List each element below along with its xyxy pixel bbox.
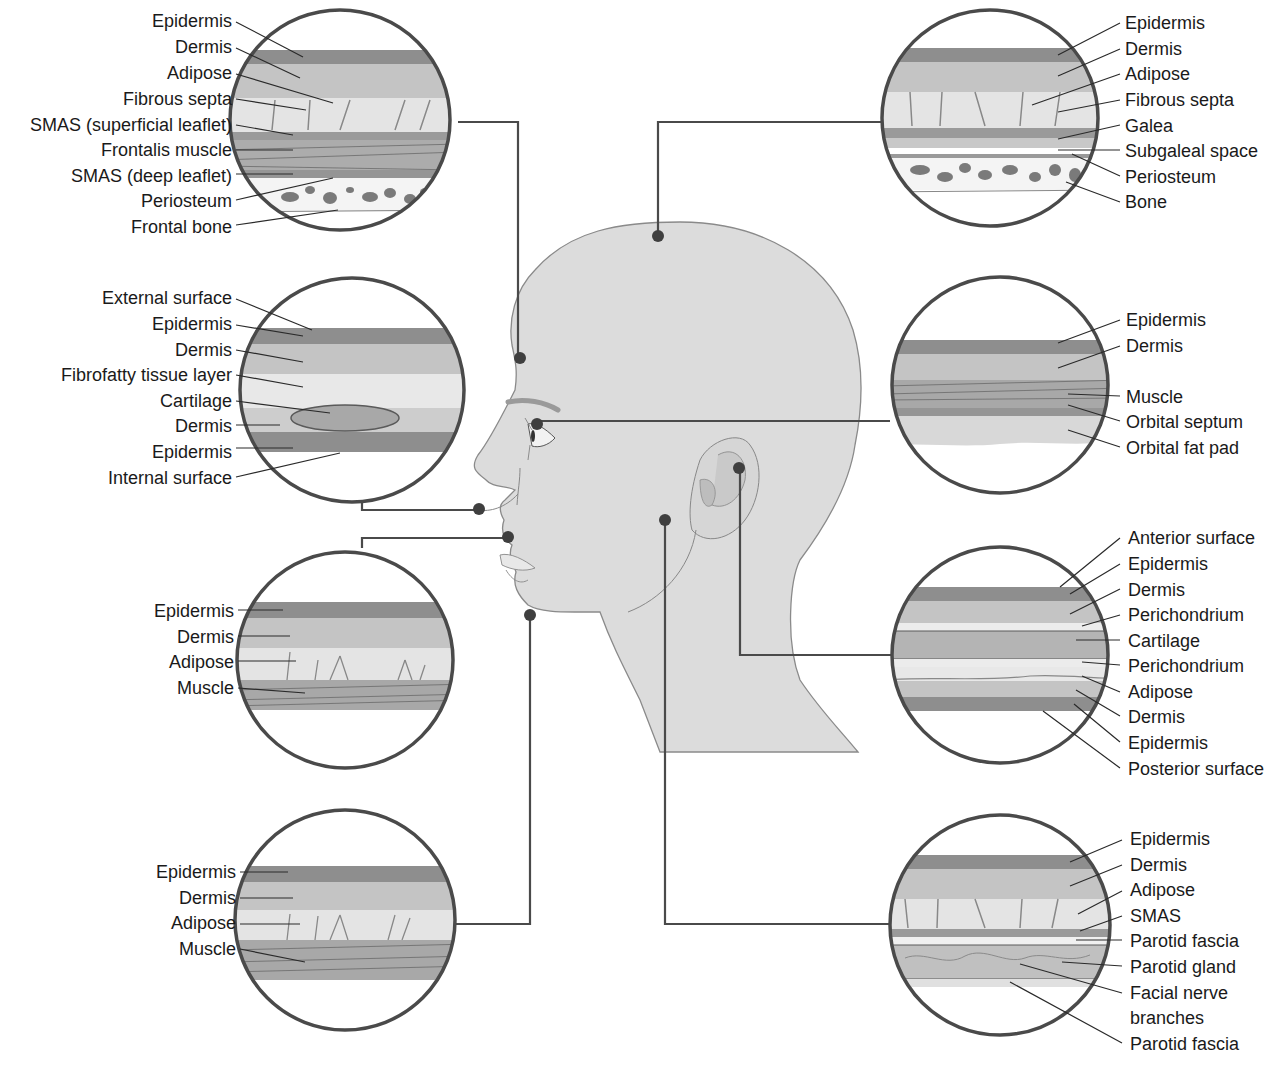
inset-chin — [230, 810, 470, 1030]
label: Bone — [1125, 192, 1167, 212]
head-profile — [440, 200, 900, 760]
label: Orbital fat pad — [1126, 438, 1239, 458]
label: Galea — [1125, 116, 1174, 136]
label: Epidermis — [1128, 554, 1208, 574]
inset-ear — [885, 547, 1125, 763]
inset-forehead — [220, 10, 460, 230]
label: Orbital septum — [1126, 412, 1243, 432]
label: Epidermis — [1125, 13, 1205, 33]
label: Epidermis — [152, 442, 232, 462]
label: Dermis — [175, 340, 232, 360]
label: Muscle — [179, 939, 236, 959]
label: Cartilage — [1128, 631, 1200, 651]
label: Parotid gland — [1130, 957, 1236, 977]
label: Adipose — [169, 652, 234, 672]
label: Fibrous septa — [123, 89, 233, 109]
label: Fibrofatty tissue layer — [61, 365, 232, 385]
lip-point — [502, 531, 514, 543]
label: branches — [1130, 1008, 1204, 1028]
label: SMAS (deep leaflet) — [71, 166, 232, 186]
forehead-point — [514, 352, 526, 364]
label: Facial nerve — [1130, 983, 1228, 1003]
label: Parotid fascia — [1130, 931, 1240, 951]
label: Epidermis — [154, 601, 234, 621]
label: Dermis — [1126, 336, 1183, 356]
label: Adipose — [1125, 64, 1190, 84]
label: Adipose — [167, 63, 232, 83]
cheek-point — [659, 514, 671, 526]
label: Adipose — [1130, 880, 1195, 900]
label: Perichondrium — [1128, 656, 1244, 676]
label: Frontalis muscle — [101, 140, 232, 160]
nose-point — [473, 503, 485, 515]
label: Dermis — [175, 416, 232, 436]
label: Adipose — [171, 913, 236, 933]
label: Dermis — [1125, 39, 1182, 59]
label: Epidermis — [1128, 733, 1208, 753]
label: Frontal bone — [131, 217, 232, 237]
inset-lip — [230, 552, 470, 768]
label: Anterior surface — [1128, 528, 1255, 548]
label: Epidermis — [1126, 310, 1206, 330]
chin-point — [524, 609, 536, 621]
label: Perichondrium — [1128, 605, 1244, 625]
label: Dermis — [175, 37, 232, 57]
label: Internal surface — [108, 468, 232, 488]
label: Periosteum — [141, 191, 232, 211]
label: Fibrous septa — [1125, 90, 1235, 110]
label: Dermis — [1128, 580, 1185, 600]
label: Parotid fascia — [1130, 1034, 1240, 1054]
inset-eyelid — [885, 277, 1125, 493]
label: Dermis — [1128, 707, 1185, 727]
label: Dermis — [1130, 855, 1187, 875]
ear-point — [733, 462, 745, 474]
label: Epidermis — [1130, 829, 1210, 849]
scalp-point — [652, 230, 664, 242]
label: Dermis — [179, 888, 236, 908]
label: Muscle — [177, 678, 234, 698]
inset-cheek — [885, 815, 1125, 1035]
eyelid-point — [531, 418, 543, 430]
label: Adipose — [1128, 682, 1193, 702]
label: Epidermis — [156, 862, 236, 882]
label: Subgaleal space — [1125, 141, 1258, 161]
label: External surface — [102, 288, 232, 308]
label: Posterior surface — [1128, 759, 1264, 779]
label: Periosteum — [1125, 167, 1216, 187]
label: Dermis — [177, 627, 234, 647]
label: Cartilage — [160, 391, 232, 411]
label: SMAS (superficial leaflet) — [30, 115, 232, 135]
label: Muscle — [1126, 387, 1183, 407]
label: Epidermis — [152, 11, 232, 31]
inset-scalp — [875, 10, 1115, 226]
label: Epidermis — [152, 314, 232, 334]
facial-layers-diagram: Epidermis Dermis Adipose Fibrous septa S… — [0, 0, 1285, 1065]
label: SMAS — [1130, 906, 1181, 926]
